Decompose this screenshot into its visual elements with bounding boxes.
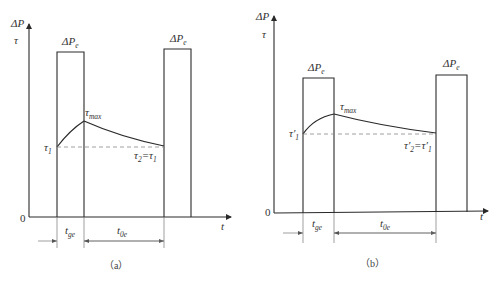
y-axis-label-delta-p: ΔP <box>255 10 269 22</box>
tau2-label: τ2=τ1 <box>134 149 157 164</box>
pressure-pulse-2 <box>164 49 191 217</box>
tau-decay-curve <box>84 121 164 146</box>
pressure-pulse-1 <box>57 52 84 217</box>
y-axis-label-delta-p: ΔP <box>10 17 24 29</box>
tau-rise-curve <box>57 121 84 147</box>
caption-b: （b） <box>360 258 385 269</box>
tau-decay-curve <box>334 114 436 133</box>
tge-label: tge <box>65 224 76 239</box>
tau-max-label: τmax <box>85 106 102 121</box>
tau2-label: τ′2=τ′1 <box>404 139 432 154</box>
x-axis <box>274 211 488 213</box>
origin-label: 0 <box>20 212 26 224</box>
t0e-label: t0e <box>117 224 128 239</box>
caption-a: （a） <box>104 260 128 271</box>
tau1-label: τ1 <box>44 141 52 156</box>
y-axis-label-tau: τ <box>14 34 19 46</box>
tau-rise-curve <box>303 114 334 134</box>
tau1-label: τ′1 <box>289 127 299 142</box>
tge-label: tge <box>312 217 323 232</box>
pressure-pulse-2 <box>436 75 467 212</box>
pulse-2-label: ΔPe <box>442 57 460 72</box>
pulse-1-label: ΔPe <box>307 61 325 76</box>
panel-a: ΔP τ 0 t ΔPe ΔPe τ1 τmax τ2=τ1 tge t0e （… <box>10 17 231 271</box>
panel-b: ΔP τ 0 t ΔPe ΔPe τ′1 τmax τ′2=τ′1 tge t0… <box>255 10 488 269</box>
tau-max-label: τmax <box>340 100 357 115</box>
pulse-1-label: ΔPe <box>61 35 79 50</box>
x-axis-label-t: t <box>480 210 484 222</box>
t0e-label: t0e <box>380 217 391 232</box>
pulse-2-label: ΔPe <box>169 32 187 47</box>
diagram-canvas: ΔP τ 0 t ΔPe ΔPe τ1 τmax τ2=τ1 tge t0e （… <box>0 0 504 283</box>
y-axis-label-tau: τ <box>262 28 267 40</box>
pressure-pulse-1 <box>303 78 334 213</box>
origin-label: 0 <box>265 206 271 218</box>
x-axis-label-t: t <box>221 220 225 232</box>
